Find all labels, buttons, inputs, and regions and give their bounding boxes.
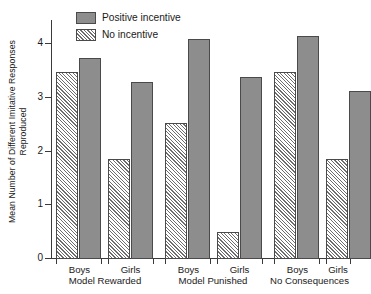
x-label-model-rewarded-girls: Girls <box>108 264 153 276</box>
bar-model-rewarded-girls-positive-incentive <box>131 82 153 259</box>
bar-no-consequences-girls-no-incentive <box>326 159 348 259</box>
bar-model-punished-boys-positive-incentive <box>188 39 210 259</box>
bar-model-rewarded-boys-positive-incentive <box>79 58 101 259</box>
x-axis-tick-4 <box>153 259 154 264</box>
bar-model-rewarded-boys-no-incentive <box>56 72 78 259</box>
y-axis-label-2: 2 <box>23 146 43 156</box>
legend: Positive incentive No incentive <box>76 10 181 44</box>
x-axis-tick-8 <box>262 259 263 264</box>
y-axis-title-line-2: Reproduced <box>17 40 28 223</box>
legend-label-no-incentive: No incentive <box>102 29 158 40</box>
x-group-label-model-rewarded: Model Rewarded <box>50 275 160 287</box>
bar-model-rewarded-girls-no-incentive <box>108 159 130 259</box>
legend-swatch-solid-icon <box>76 12 96 24</box>
x-label-model-rewarded-boys: Boys <box>57 264 102 276</box>
y-axis-label-4: 4 <box>23 38 43 48</box>
x-label-model-punished-girls: Girls <box>217 264 262 276</box>
bar-model-punished-girls-no-incentive <box>217 232 239 259</box>
y-axis-title-line-1: Mean Number of Different Imitative Respo… <box>7 40 17 223</box>
bar-no-consequences-boys-positive-incentive <box>297 36 319 259</box>
x-label-model-punished-boys: Boys <box>166 264 211 276</box>
y-axis-label-3: 3 <box>23 92 43 102</box>
y-axis-label-1: 1 <box>23 199 43 209</box>
y-axis-label-0: 0 <box>23 253 43 263</box>
x-group-label-model-punished: Model Punished <box>158 275 268 287</box>
x-label-no-consequences-boys: Boys <box>275 264 320 276</box>
bar-no-consequences-boys-no-incentive <box>274 72 296 259</box>
bar-model-punished-boys-no-incentive <box>165 123 187 259</box>
plot-area <box>51 20 351 259</box>
legend-item-no-incentive: No incentive <box>76 27 181 42</box>
x-label-no-consequences-girls: Girls <box>320 264 356 276</box>
x-group-label-no-consequences: No Consequences <box>263 275 356 287</box>
bar-no-consequences-girls-positive-incentive <box>349 91 371 259</box>
legend-swatch-hatched-icon <box>76 29 96 41</box>
legend-label-positive-incentive: Positive incentive <box>102 12 181 23</box>
legend-item-positive-incentive: Positive incentive <box>76 10 181 25</box>
bar-model-punished-girls-positive-incentive <box>240 77 262 259</box>
